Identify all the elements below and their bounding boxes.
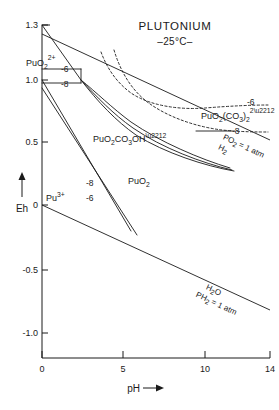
label-puo2co3oh-minus: PuO2CO3OH\u2212: [93, 132, 167, 146]
water-upper-label-group: PO2 = 1 atm H2: [216, 133, 266, 171]
label-h2-upper: H2: [216, 143, 229, 156]
water-upper-stability-line: [42, 34, 270, 140]
chart-subtitle: –25°C–: [157, 36, 192, 47]
y-tick-label--0.5: -0.5: [22, 265, 38, 275]
conc-label-minus6-upper: -6: [61, 64, 69, 74]
y-axis-title: Eh: [16, 203, 28, 214]
label-pu-3plus: Pu3+: [46, 191, 65, 204]
y-tick-label-0: 0: [33, 200, 38, 210]
conc-label-minus8-upper: -8: [61, 79, 69, 89]
conc-label-minus8-pu3plus: -8: [86, 178, 94, 188]
x-tick-label-0: 0: [39, 364, 44, 374]
x-axis-title: pH: [127, 383, 140, 394]
title-block: PLUTONIUM –25°C–: [139, 20, 212, 47]
y-tick-label-0.5: 0.5: [25, 137, 38, 147]
puo2-carbonate-boundary-middle: [81, 80, 232, 170]
conc-label-minus6-carbonate: -6: [247, 97, 255, 107]
y-tick-label-1.3: 1.3: [25, 20, 38, 30]
boundary-lines-group: [42, 25, 270, 310]
pourbaix-diagram: 1.3 1.0 0.5 0 -0.5 -1.0 0 5 10 14 Eh pH …: [0, 0, 279, 410]
conc-label-minus6-pu3plus: -6: [86, 193, 94, 203]
label-puo2-co3-2-2minus: PuO2(CO3)22\u2212: [201, 107, 275, 123]
y-tick-label-1.0: 1.0: [25, 75, 38, 85]
eh-arrow-head-icon: [19, 172, 26, 180]
puo2-carbonate-boundary-lower: [81, 80, 234, 171]
conc-label-minus8-carbonate: -8: [232, 126, 240, 136]
water-lower-stability-line: [42, 205, 270, 310]
x-tick-label-5: 5: [120, 364, 125, 374]
water-stability-labels-group: PO2 = 1 atm H2 H2O PH2 = 1 atm: [194, 133, 266, 318]
label-puo2-solid: PuO2: [128, 176, 150, 188]
puo2-carbonate-boundary-upper: [81, 80, 230, 168]
axis-titles-group: Eh pH: [16, 172, 164, 394]
pu3plus-boundary-minus8: [42, 80, 131, 231]
y-tick-label--1.0: -1.0: [22, 328, 38, 338]
chart-title: PLUTONIUM: [139, 20, 212, 32]
label-puo2-2plus: PuO22+: [26, 54, 56, 70]
label-po2-1atm: PO2 = 1 atm: [221, 133, 266, 161]
pu3plus-boundary-minus6: [42, 88, 137, 235]
x-tick-label-14: 14: [265, 364, 275, 374]
plot-canvas: 1.3 1.0 0.5 0 -0.5 -1.0 0 5 10 14 Eh pH …: [0, 0, 279, 410]
ph-arrow-head-icon: [156, 385, 164, 392]
x-tick-label-10: 10: [200, 364, 210, 374]
